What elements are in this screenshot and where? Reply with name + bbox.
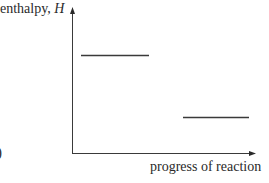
y-axis-arrow-icon: [70, 7, 75, 14]
x-axis-label: progress of reaction: [150, 159, 261, 175]
x-axis-arrow-icon: [249, 151, 256, 156]
enthalpy-diagram: [0, 0, 269, 183]
